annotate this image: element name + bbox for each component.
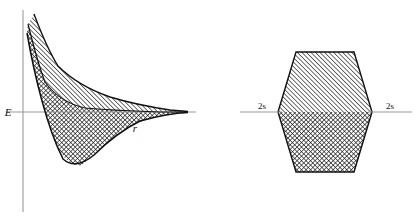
right-panel: 2s 2s — [240, 52, 412, 172]
figure-root: E r 2s 2s — [0, 0, 416, 222]
right-orbital-label: 2s — [386, 101, 395, 111]
left-orbital-label: 2s — [258, 101, 267, 111]
energy-axis-label: E — [4, 106, 12, 118]
distance-axis-label: r — [133, 122, 138, 134]
diagram-canvas: E r 2s 2s — [0, 0, 416, 222]
bonding-region — [27, 24, 188, 165]
left-panel: E r — [4, 10, 196, 212]
